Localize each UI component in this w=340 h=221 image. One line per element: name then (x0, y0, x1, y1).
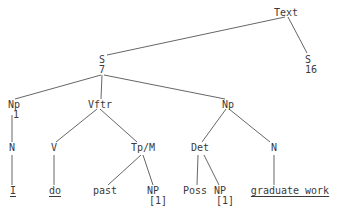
edge-s7-np (104, 75, 225, 99)
leaf-do: do (49, 186, 61, 196)
leaf-graduate-work: graduate work (251, 186, 329, 196)
edge-np-n (229, 109, 270, 142)
node-s16: S 16 (305, 55, 317, 75)
node-s7-index: 7 (99, 65, 105, 75)
edge-det-poss (197, 155, 198, 185)
node-root: Text (274, 8, 298, 18)
node-v: V (51, 143, 57, 153)
node-np-det-index: [1] (214, 196, 234, 206)
edge-det-np (204, 155, 219, 185)
node-np1: Np 1 (8, 100, 20, 120)
edge-s7-np1 (15, 75, 101, 99)
edge-tpm-np (143, 155, 153, 185)
edge-root-s7 (107, 17, 285, 55)
node-vftr: Vftr (88, 100, 112, 110)
node-n-object: N (271, 143, 277, 153)
edge-root-s16 (288, 17, 307, 53)
edge-vftr-v (56, 109, 97, 142)
node-np-object: Np (222, 100, 234, 110)
edge-tpm-past (108, 155, 141, 185)
leaf-poss: Poss (183, 186, 207, 196)
edge-np-det (202, 109, 226, 142)
node-s7: S 7 (99, 55, 105, 75)
edge-s7-vftr (101, 75, 102, 99)
leaf-past: past (93, 186, 117, 196)
node-np-det: NP [1] (214, 186, 234, 206)
node-det: Det (191, 143, 209, 153)
leaf-i: I (10, 186, 16, 196)
node-np-tp-index: [1] (147, 196, 167, 206)
edge-vftr-tpm (100, 109, 137, 142)
node-np1-index: 1 (8, 110, 20, 120)
node-np-tp: NP [1] (147, 186, 167, 206)
node-tpm: Tp/M (131, 143, 155, 153)
node-n-subject: N (9, 143, 15, 153)
node-s16-index: 16 (305, 65, 317, 75)
